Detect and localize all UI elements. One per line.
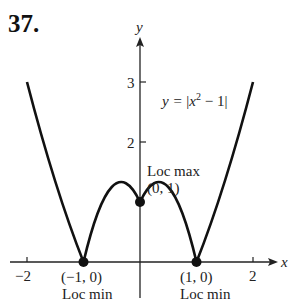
- x-tick-label-2: 2: [249, 268, 257, 284]
- y-tick-label-3: 3: [127, 75, 135, 91]
- y-tick-label-2: 2: [127, 135, 135, 151]
- local-max-coord: (0, 1): [147, 180, 180, 197]
- local-min-right-point: [192, 257, 202, 267]
- function-label: y = |x2 − 1|: [160, 91, 227, 109]
- local-max-point: [135, 197, 145, 207]
- local-min-left-title: Loc min: [62, 286, 113, 302]
- x-axis-label: x: [280, 254, 288, 270]
- graph: x y −2 2 2 3 y = |x2 − 1| Loc max (0, 1)…: [0, 0, 296, 303]
- local-min-right-title: Loc min: [180, 286, 231, 302]
- local-min-left-coord: (−1, 0): [61, 269, 102, 286]
- x-tick-label-neg2: −2: [15, 268, 31, 284]
- y-axis-label: y: [134, 19, 143, 35]
- local-min-left-point: [79, 257, 89, 267]
- local-min-right-coord: (1, 0): [180, 269, 213, 286]
- local-max-title: Loc max: [147, 163, 200, 179]
